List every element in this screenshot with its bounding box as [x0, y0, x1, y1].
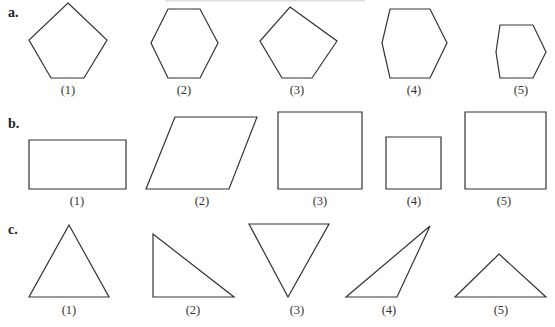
hexagon-shape — [151, 9, 218, 78]
geometry-figure: a. (1)(2)(3)(4)(5) b. (1)(2)(3)(4)(5) c.… — [0, 0, 555, 327]
figure-item-b-2: (2) — [146, 117, 257, 208]
square-shape — [465, 112, 546, 189]
small-square-shape — [386, 137, 441, 189]
equilateral-triangle-shape — [29, 225, 109, 297]
figure-item-a-2: (2) — [151, 9, 218, 97]
figure-item-c-2: (2) — [153, 234, 234, 317]
item-label: (5) — [494, 303, 509, 317]
item-label: (2) — [195, 194, 210, 208]
figure-item-a-4: (4) — [382, 9, 447, 97]
figure-item-c-5: (5) — [455, 254, 546, 317]
item-label: (5) — [514, 83, 529, 97]
item-label: (1) — [70, 194, 85, 208]
item-label: (4) — [407, 83, 422, 97]
item-label: (3) — [290, 83, 305, 97]
item-label: (2) — [186, 303, 201, 317]
inverted-triangle-shape — [249, 224, 329, 297]
section-label-a: a. — [8, 5, 19, 20]
regular-pentagon-shape — [29, 3, 107, 78]
item-label: (1) — [61, 83, 76, 97]
section-a: a. (1)(2)(3)(4)(5) — [8, 3, 546, 97]
square-shape — [278, 112, 362, 189]
section-label-b: b. — [8, 116, 19, 131]
obtuse-triangle-shape — [346, 226, 430, 297]
item-label: (2) — [177, 83, 192, 97]
figure-item-a-5: (5) — [496, 25, 546, 97]
figure-item-c-4: (4) — [346, 226, 430, 317]
section-c: c. (1)(2)(3)(4)(5) — [8, 222, 546, 317]
figure-item-c-1: (1) — [29, 225, 109, 317]
parallelogram-shape — [146, 117, 257, 189]
hexagon-shape — [382, 9, 447, 78]
item-label: (4) — [382, 303, 397, 317]
cropped-header-text — [165, 0, 365, 2]
figure-item-c-3: (3) — [249, 224, 329, 317]
irregular-pentagon-shape — [260, 7, 337, 78]
item-label: (3) — [313, 194, 328, 208]
figure-item-a-3: (3) — [260, 7, 337, 97]
obtuse-isosceles-triangle-shape — [455, 254, 546, 297]
item-label: (3) — [290, 303, 305, 317]
small-hexagon-shape — [496, 25, 546, 78]
section-b: b. (1)(2)(3)(4)(5) — [8, 112, 546, 208]
item-label: (5) — [497, 194, 512, 208]
rectangle-shape — [29, 140, 126, 189]
item-label: (1) — [62, 303, 77, 317]
section-label-c: c. — [8, 222, 18, 237]
figure-item-a-1: (1) — [29, 3, 107, 97]
figure-item-b-5: (5) — [465, 112, 546, 208]
figure-item-b-1: (1) — [29, 140, 126, 208]
item-label: (4) — [407, 194, 422, 208]
figure-item-b-4: (4) — [386, 137, 441, 208]
right-triangle-shape — [153, 234, 234, 297]
figure-item-b-3: (3) — [278, 112, 362, 208]
